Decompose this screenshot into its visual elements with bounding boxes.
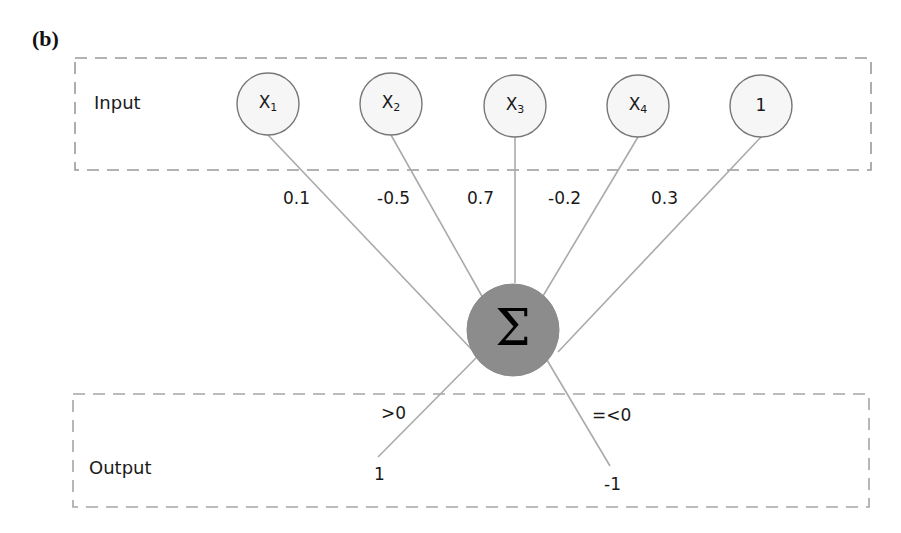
output-condition-positive: >0	[381, 405, 406, 422]
perceptron-diagram: (b) Input Output X1 X2 X3 X4 1 0.1 -0.5 …	[0, 0, 901, 533]
output-group-box	[73, 394, 869, 507]
diagram-canvas	[0, 0, 901, 533]
summation-icon: Σ	[466, 303, 560, 353]
node-subscript: 3	[517, 103, 524, 116]
weight-x1: 0.1	[283, 190, 310, 207]
node-name: 1	[756, 95, 767, 115]
weight-x3: 0.7	[467, 190, 494, 207]
input-group-label: Input	[94, 94, 141, 112]
node-subscript: 2	[393, 101, 400, 114]
output-group-label: Output	[89, 459, 152, 477]
input-node-x2-label: X2	[360, 94, 422, 113]
output-value-negative: -1	[604, 476, 621, 493]
node-name: X	[259, 92, 271, 112]
node-subscript: 1	[270, 101, 277, 114]
input-node-x3-label: X3	[484, 96, 546, 115]
output-condition-negative: =<0	[592, 407, 631, 424]
output-edges	[378, 357, 610, 466]
edge-x1	[268, 135, 475, 353]
node-name: X	[506, 94, 518, 114]
node-subscript: 4	[640, 103, 647, 116]
input-node-bias-label: 1	[730, 97, 792, 114]
node-name: X	[382, 92, 394, 112]
edge-x2	[391, 135, 483, 298]
weight-bias: 0.3	[651, 190, 678, 207]
input-node-x1-label: X1	[237, 94, 299, 113]
weight-x4: -0.2	[548, 190, 581, 207]
output-value-positive: 1	[374, 466, 385, 483]
edge-x4	[543, 137, 638, 296]
input-node-x4-label: X4	[607, 96, 669, 115]
weight-x2: -0.5	[377, 190, 410, 207]
node-name: X	[629, 94, 641, 114]
panel-label: (b)	[32, 26, 59, 52]
